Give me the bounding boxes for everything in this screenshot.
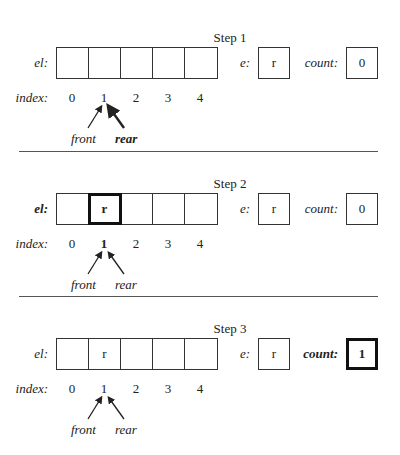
front-arrow <box>88 253 101 274</box>
front-pointer-label: front <box>71 277 96 293</box>
step-2: Step 2el:re:rcount:0index:01234 frontrea… <box>0 176 400 321</box>
rear-pointer-label: rear <box>115 422 137 438</box>
pointer-arrows <box>0 30 400 175</box>
front-pointer-label: front <box>71 422 96 438</box>
divider <box>19 296 378 297</box>
rear-arrow <box>109 107 124 128</box>
front-pointer-label: front <box>71 131 96 147</box>
step-3: Step 3el:re:rcount:1index:01234 frontrea… <box>0 321 400 455</box>
rear-pointer-label: rear <box>115 277 137 293</box>
front-arrow <box>88 107 101 128</box>
divider <box>19 151 378 152</box>
rear-pointer-label: rear <box>115 131 137 147</box>
rear-arrow <box>109 253 124 274</box>
rear-arrow <box>109 398 124 419</box>
pointer-arrows <box>0 176 400 321</box>
front-arrow <box>88 398 101 419</box>
pointer-arrows <box>0 321 400 455</box>
step-1: Step 1el:e:rcount:0index:01234 frontrear <box>0 30 400 175</box>
